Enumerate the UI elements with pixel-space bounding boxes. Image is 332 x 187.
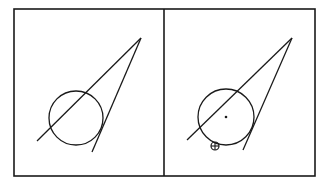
right-tangent-line — [243, 38, 292, 150]
crosshair-marker-icon — [211, 142, 219, 150]
right-panel — [187, 38, 292, 150]
left-secant-line — [37, 38, 141, 141]
left-panel — [37, 38, 141, 152]
circle-center-dot — [225, 116, 228, 119]
right-secant-line — [187, 38, 292, 140]
geometry-diagram — [0, 0, 332, 187]
left-circle — [49, 91, 103, 145]
left-tangent-line — [92, 38, 141, 152]
